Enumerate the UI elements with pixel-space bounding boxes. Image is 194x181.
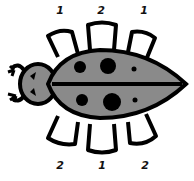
bottom-label-3: 2 — [138, 159, 152, 172]
top-label-3: 1 — [137, 4, 151, 17]
leg-bottom-1 — [48, 116, 78, 144]
bottom-label-2: 1 — [95, 159, 109, 172]
leg-top-1 — [48, 31, 78, 57]
top-label-2: 2 — [94, 4, 108, 17]
ladybug-illustration — [0, 0, 194, 181]
leg-top-2 — [88, 23, 116, 51]
top-label-1: 1 — [53, 4, 67, 17]
leg-bottom-3 — [128, 114, 156, 144]
bottom-label-1: 2 — [53, 159, 67, 172]
leg-bottom-2 — [88, 124, 116, 153]
